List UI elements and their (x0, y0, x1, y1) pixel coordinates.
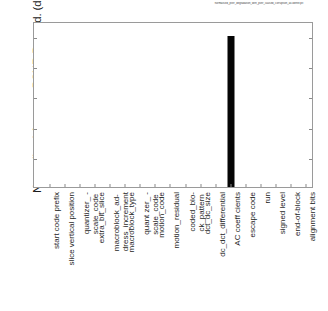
y-tick-mark-right (309, 159, 312, 160)
y-tick-mark (34, 68, 37, 69)
plot-area: 246810 (33, 22, 313, 188)
y-tick-mark-right (309, 68, 312, 69)
y-tick-mark-right (309, 38, 312, 39)
y-tick-mark-right (309, 98, 312, 99)
x-tick-mark (261, 184, 262, 187)
x-tick-mark (79, 184, 80, 187)
x-tick-mark (49, 184, 50, 187)
x-tick-mark (245, 184, 246, 187)
x-tick-label: AC coeff cients (234, 192, 243, 246)
y-tick-mark (34, 159, 37, 160)
x-tick-mark (125, 184, 126, 187)
x-tick-label: slice vertical position (68, 192, 77, 265)
x-tick-mark (140, 184, 141, 187)
x-tick-label: run (264, 192, 273, 204)
x-tick-mark (110, 184, 111, 187)
chart-title: normalised_psnr_degradation_with_psnr_ca… (203, 2, 315, 5)
x-tick-label: escape code (249, 192, 258, 237)
x-tick-label: motion_code (158, 192, 167, 238)
x-tick-mark (94, 184, 95, 187)
x-tick-mark (200, 184, 201, 187)
x-tick-mark (291, 184, 292, 187)
x-tick-label: motion_residual (173, 192, 182, 248)
x-tick-label: macroblock_type (128, 192, 137, 252)
y-tick-mark-right (309, 129, 312, 130)
x-tick-mark (215, 184, 216, 187)
x-tick-mark (276, 184, 277, 187)
x-tick-mark (170, 184, 171, 187)
x-tick-mark (64, 184, 65, 187)
x-tick-label: alignment bits (309, 192, 318, 241)
bar (227, 36, 234, 187)
x-tick-label: extra_bit_slice (98, 192, 107, 243)
x-tick-label: dc_dct_differential (219, 192, 228, 257)
x-tick-label: signed level (279, 192, 288, 234)
chart-figure: normalised_psnr_degradation_with_psnr_ca… (0, 0, 328, 311)
y-tick-mark (34, 38, 37, 39)
x-tick-mark (185, 184, 186, 187)
x-tick-mark (306, 184, 307, 187)
x-tick-label: end-of-block (294, 192, 303, 236)
y-tick-mark (34, 98, 37, 99)
x-tick-label: start code prefix (53, 192, 62, 249)
x-tick-mark (155, 184, 156, 187)
x-tick-label: dct_dc_size (204, 192, 213, 234)
y-tick-mark (34, 129, 37, 130)
x-tick-mark (230, 184, 231, 187)
